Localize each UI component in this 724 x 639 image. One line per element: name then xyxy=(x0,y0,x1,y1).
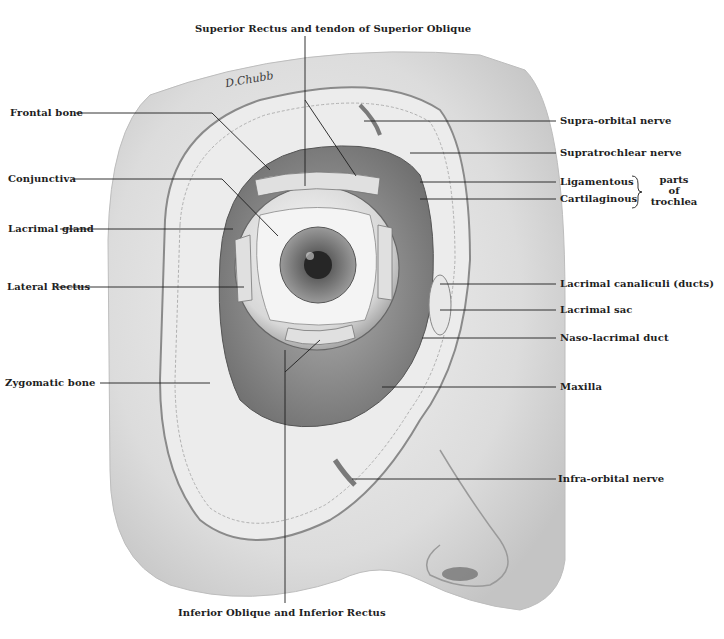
label-naso-lacrimal-duct: Naso-lacrimal duct xyxy=(560,332,669,344)
label-ligamentous: Ligamentous xyxy=(560,176,634,188)
label-zygomatic-bone: Zygomatic bone xyxy=(5,377,96,389)
anatomy-figure: D.Chubb Superior Rectus and tendon of Su… xyxy=(0,0,724,639)
label-conjunctiva: Conjunctiva xyxy=(8,173,76,185)
orbit-illustration xyxy=(0,0,724,639)
label-inferior-oblique: Inferior Oblique and Inferior Rectus xyxy=(178,607,386,619)
label-supra-orbital-nerve: Supra-orbital nerve xyxy=(560,115,671,127)
trochlea-word-parts: parts xyxy=(646,174,702,185)
label-lateral-rectus: Lateral Rectus xyxy=(7,281,90,293)
label-lacrimal-canaliculi: Lacrimal canaliculi (ducts) xyxy=(560,278,714,290)
label-lacrimal-gland: Lacrimal gland xyxy=(8,223,94,235)
label-frontal-bone: Frontal bone xyxy=(10,107,83,119)
label-parts-of-trochlea: parts of trochlea xyxy=(646,174,702,207)
label-maxilla: Maxilla xyxy=(560,381,602,393)
trochlea-word-trochlea: trochlea xyxy=(646,196,702,207)
label-infra-orbital-nerve: Infra-orbital nerve xyxy=(558,473,664,485)
label-lacrimal-sac: Lacrimal sac xyxy=(560,304,632,316)
label-superior-rectus: Superior Rectus and tendon of Superior O… xyxy=(195,23,471,35)
trochlea-word-of: of xyxy=(646,185,702,196)
label-cartilaginous: Cartilaginous xyxy=(560,193,637,205)
label-supratrochlear-nerve: Supratrochlear nerve xyxy=(560,147,682,159)
